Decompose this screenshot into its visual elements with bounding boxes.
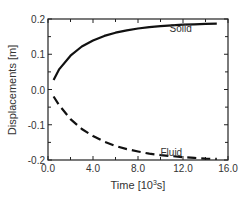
y-tick-label: -0.2 (28, 155, 46, 166)
displacement-chart: 0.04.08.012.016.00.20.10.0-0.1-0.2 Displ… (0, 0, 248, 200)
x-tick-label: 16.0 (218, 163, 238, 174)
chart-canvas: 0.04.08.012.016.00.20.10.0-0.1-0.2 Displ… (0, 0, 248, 200)
solid-annotation: Solid (170, 23, 192, 34)
series-lines (54, 24, 217, 159)
x-axis-label: Time [103s] (111, 179, 166, 191)
y-tick-label: -0.1 (28, 120, 46, 131)
x-tick-label: 4.0 (86, 163, 100, 174)
y-tick-label: 0.0 (31, 85, 45, 96)
plot-frame (48, 19, 228, 160)
y-tick-label: 0.2 (31, 14, 45, 25)
x-tick-label: 12.0 (173, 163, 193, 174)
y-tick-label: 0.1 (31, 49, 45, 60)
fluid-annotation: Fluid (161, 147, 183, 158)
solid-displacement-line (54, 24, 217, 80)
x-tick-label: 8.0 (131, 163, 145, 174)
series-annotations: SolidFluid (161, 23, 192, 158)
y-axis-label: Displacements [m] (6, 45, 18, 135)
fluid-displacement-line (54, 97, 217, 159)
